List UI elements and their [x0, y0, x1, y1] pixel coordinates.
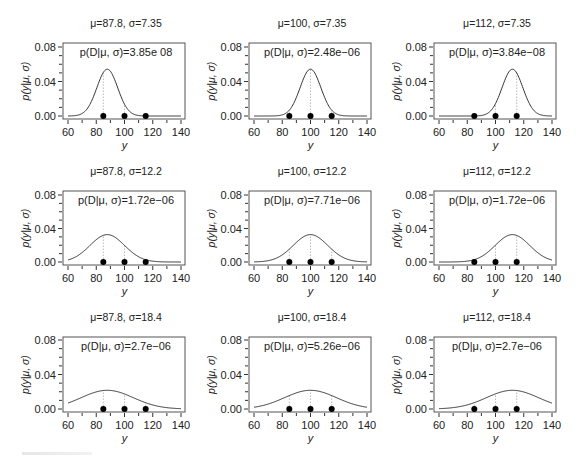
y-tick-label: 0.00 [35, 110, 56, 122]
x-tick-label: 100 [301, 272, 319, 284]
x-tick-label: 120 [515, 272, 533, 284]
x-tick-label: 100 [115, 126, 133, 138]
panel-title: μ=87.8, σ=12.2 [90, 165, 162, 177]
likelihood-label: p(D|μ, σ)=1.72e−06 [78, 194, 174, 206]
y-tick-label: 0.00 [406, 403, 427, 415]
y-tick-label: 0.04 [406, 76, 427, 88]
panel-9: μ=112, σ=18.40.000.040.086080100120140yp… [390, 311, 561, 444]
x-tick-label: 100 [301, 126, 319, 138]
panel-title: μ=87.8, σ=18.4 [90, 311, 162, 323]
x-axis-label: y [121, 432, 129, 444]
y-tick-label: 0.08 [221, 334, 242, 346]
x-tick-label: 140 [358, 126, 376, 138]
x-tick-label: 140 [172, 126, 190, 138]
x-axis-label: y [492, 139, 500, 151]
y-tick-label: 0.00 [406, 110, 427, 122]
x-tick-label: 80 [461, 126, 473, 138]
x-tick-label: 60 [248, 126, 260, 138]
y-axis-label: p(y|μ, σ) [390, 62, 402, 102]
y-tick-label: 0.08 [35, 41, 56, 53]
data-point [329, 406, 335, 412]
y-tick-label: 0.04 [406, 369, 427, 381]
x-tick-label: 60 [62, 126, 74, 138]
panel-title: μ=100, σ=7.35 [278, 17, 347, 29]
panel-title: μ=100, σ=12.2 [278, 165, 347, 177]
x-tick-label: 100 [486, 272, 504, 284]
likelihood-label: p(D|μ, σ)=2.7e−06 [452, 340, 542, 352]
y-tick-label: 0.08 [406, 334, 427, 346]
panel-7: μ=87.8, σ=18.40.000.040.086080100120140y… [19, 311, 190, 444]
data-point [100, 406, 106, 412]
data-point [471, 406, 477, 412]
x-tick-label: 120 [144, 272, 162, 284]
x-axis-label: y [492, 432, 500, 444]
likelihood-label: p(D|μ, σ)=2.7e−06 [81, 340, 171, 352]
data-point [122, 113, 128, 119]
y-tick-label: 0.08 [221, 41, 242, 53]
data-point [514, 259, 520, 265]
footer-mark [22, 452, 92, 455]
x-tick-label: 60 [433, 272, 445, 284]
likelihood-label: p(D|μ, σ)=5.26e−06 [264, 340, 360, 352]
panel-title: μ=112, σ=12.2 [463, 165, 531, 177]
panel-title: μ=100, σ=18.4 [278, 311, 347, 323]
panel-title: μ=112, σ=7.35 [463, 17, 531, 29]
x-tick-label: 140 [543, 126, 561, 138]
panel-1: μ=87.8, σ=7.350.000.040.086080100120140y… [19, 17, 190, 151]
panel-title: μ=112, σ=18.4 [463, 311, 531, 323]
x-axis-label: y [121, 285, 129, 297]
likelihood-label: p(D|μ, σ)=3.84e−08 [449, 46, 545, 58]
x-tick-label: 100 [486, 126, 504, 138]
x-tick-label: 140 [543, 419, 561, 431]
x-tick-label: 80 [461, 272, 473, 284]
panel-4: μ=87.8, σ=12.20.000.040.086080100120140y… [19, 165, 190, 297]
x-tick-label: 140 [358, 419, 376, 431]
y-tick-label: 0.08 [35, 334, 56, 346]
figure: μ=87.8, σ=7.350.000.040.086080100120140y… [0, 0, 581, 461]
x-tick-label: 60 [433, 419, 445, 431]
data-point [143, 406, 149, 412]
y-axis-label: p(y|μ, σ) [205, 355, 217, 395]
y-axis-label: p(y|μ, σ) [205, 62, 217, 102]
x-tick-label: 80 [90, 126, 102, 138]
x-axis-label: y [307, 139, 315, 151]
y-axis-label: p(y|μ, σ) [19, 355, 31, 395]
x-tick-label: 140 [358, 272, 376, 284]
x-tick-label: 100 [486, 419, 504, 431]
x-tick-label: 80 [276, 419, 288, 431]
panel-title: μ=87.8, σ=7.35 [90, 17, 162, 29]
x-axis-label: y [307, 432, 315, 444]
data-point [329, 113, 335, 119]
y-tick-label: 0.00 [406, 256, 427, 268]
data-point [514, 406, 520, 412]
y-tick-label: 0.08 [406, 189, 427, 201]
y-axis-label: p(y|μ, σ) [390, 209, 402, 249]
data-point [493, 406, 499, 412]
x-axis-label: y [121, 139, 129, 151]
x-tick-label: 120 [330, 419, 348, 431]
data-point [308, 259, 314, 265]
y-tick-label: 0.08 [221, 189, 242, 201]
data-point [286, 259, 292, 265]
data-point [471, 113, 477, 119]
x-tick-label: 120 [144, 126, 162, 138]
x-tick-label: 80 [90, 419, 102, 431]
y-tick-label: 0.04 [406, 223, 427, 235]
y-tick-label: 0.04 [221, 369, 242, 381]
x-tick-label: 140 [172, 419, 190, 431]
y-tick-label: 0.04 [221, 223, 242, 235]
likelihood-label: p(D|μ, σ)=7.71e−06 [264, 194, 360, 206]
data-point [286, 113, 292, 119]
data-point [122, 259, 128, 265]
y-tick-label: 0.08 [35, 189, 56, 201]
x-tick-label: 80 [461, 419, 473, 431]
data-point [286, 406, 292, 412]
data-point [100, 259, 106, 265]
x-tick-label: 140 [172, 272, 190, 284]
y-axis-label: p(y|μ, σ) [19, 62, 31, 102]
y-tick-label: 0.04 [35, 76, 56, 88]
y-tick-label: 0.00 [221, 256, 242, 268]
y-tick-label: 0.00 [221, 110, 242, 122]
data-point [122, 406, 128, 412]
x-tick-label: 120 [330, 272, 348, 284]
